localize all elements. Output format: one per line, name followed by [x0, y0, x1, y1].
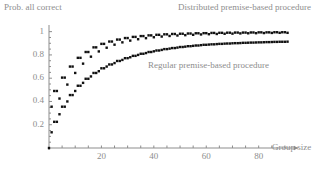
data-point	[71, 65, 73, 67]
chart-figure: Prob. all correct Group size Distributed…	[0, 0, 326, 170]
data-point	[195, 44, 197, 46]
data-point	[113, 62, 115, 64]
data-point	[77, 85, 79, 87]
data-point	[121, 59, 123, 61]
data-point	[87, 78, 89, 80]
data-point	[58, 97, 60, 99]
data-point	[189, 32, 191, 34]
data-point	[216, 43, 218, 45]
data-point	[223, 42, 225, 44]
data-point	[255, 32, 257, 34]
data-point	[218, 43, 220, 45]
data-point	[50, 131, 52, 133]
data-point	[66, 83, 68, 85]
data-point	[213, 32, 215, 34]
data-point	[163, 33, 165, 35]
data-point	[229, 32, 231, 34]
data-point	[98, 50, 100, 52]
data-point	[95, 46, 97, 48]
data-point	[205, 32, 207, 34]
data-point	[271, 41, 273, 43]
data-point	[163, 48, 165, 50]
data-point	[119, 60, 121, 62]
data-point	[126, 37, 128, 39]
data-point	[229, 42, 231, 44]
data-point	[84, 78, 86, 80]
data-point	[95, 72, 97, 74]
data-point	[187, 32, 189, 34]
data-point	[226, 42, 228, 44]
data-point	[100, 67, 102, 69]
data-point	[69, 94, 71, 96]
data-point	[50, 106, 52, 108]
data-point	[273, 31, 275, 33]
data-point	[48, 147, 50, 149]
data-point	[145, 37, 147, 39]
data-point	[237, 31, 239, 33]
data-point	[53, 90, 55, 92]
data-point	[255, 41, 257, 43]
data-point	[247, 32, 249, 34]
data-point	[231, 42, 233, 44]
data-point	[119, 38, 121, 40]
data-point	[147, 34, 149, 36]
data-point	[268, 41, 270, 43]
data-point	[205, 44, 207, 46]
data-point	[184, 45, 186, 47]
data-point	[82, 82, 84, 84]
data-point	[250, 31, 252, 33]
data-point	[252, 31, 254, 33]
data-point	[278, 41, 280, 43]
data-point	[116, 38, 118, 40]
data-point	[247, 42, 249, 44]
data-point	[265, 31, 267, 33]
data-point	[221, 43, 223, 45]
data-point	[166, 48, 168, 50]
data-point	[92, 72, 94, 74]
data-point	[108, 40, 110, 42]
data-point	[90, 75, 92, 77]
data-point	[176, 46, 178, 48]
data-point	[90, 55, 92, 57]
data-point	[179, 33, 181, 35]
data-point	[263, 41, 265, 43]
data-point	[56, 121, 58, 123]
data-point	[195, 32, 197, 34]
data-point	[126, 57, 128, 59]
data-point	[142, 35, 144, 37]
data-point	[276, 31, 278, 33]
data-point	[84, 51, 86, 53]
data-point	[171, 33, 173, 35]
data-point	[77, 57, 79, 59]
data-point	[129, 39, 131, 41]
data-point	[286, 32, 288, 34]
data-point	[74, 72, 76, 74]
data-point	[147, 51, 149, 53]
data-point	[284, 31, 286, 33]
data-point	[252, 41, 254, 43]
data-point	[278, 32, 280, 34]
data-point	[145, 52, 147, 54]
x-axis-arrow	[294, 146, 298, 150]
data-point	[150, 34, 152, 36]
data-point	[239, 32, 241, 34]
data-point	[69, 65, 71, 67]
data-point	[161, 49, 163, 51]
data-point	[265, 41, 267, 43]
data-point	[56, 90, 58, 92]
data-point	[116, 60, 118, 62]
data-point	[158, 49, 160, 51]
data-point	[121, 41, 123, 43]
data-point	[210, 43, 212, 45]
data-point	[239, 42, 241, 44]
data-point	[286, 40, 288, 42]
data-point	[263, 32, 265, 34]
data-point	[168, 35, 170, 37]
data-point	[129, 56, 131, 58]
data-point	[132, 55, 134, 57]
data-point	[223, 33, 225, 35]
data-point	[140, 53, 142, 55]
data-point	[124, 37, 126, 39]
data-point	[200, 33, 202, 35]
data-point	[257, 41, 259, 43]
